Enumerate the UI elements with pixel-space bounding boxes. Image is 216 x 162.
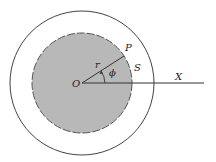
axis-label: X [174, 71, 183, 82]
point-label: P [124, 42, 132, 53]
origin-label: O [72, 78, 80, 89]
polar-diagram: O P r ϕ S X [0, 0, 216, 162]
region-label: S [134, 62, 141, 73]
angle-label: ϕ [109, 67, 116, 78]
